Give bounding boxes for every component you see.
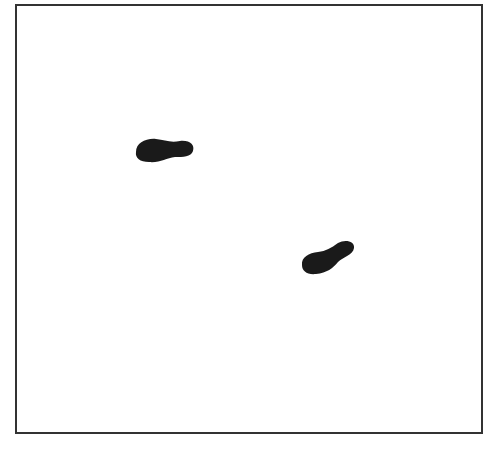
dark-spot-2: [302, 241, 354, 274]
dark-spot-1: [136, 139, 194, 162]
blobs-layer: [0, 0, 501, 453]
